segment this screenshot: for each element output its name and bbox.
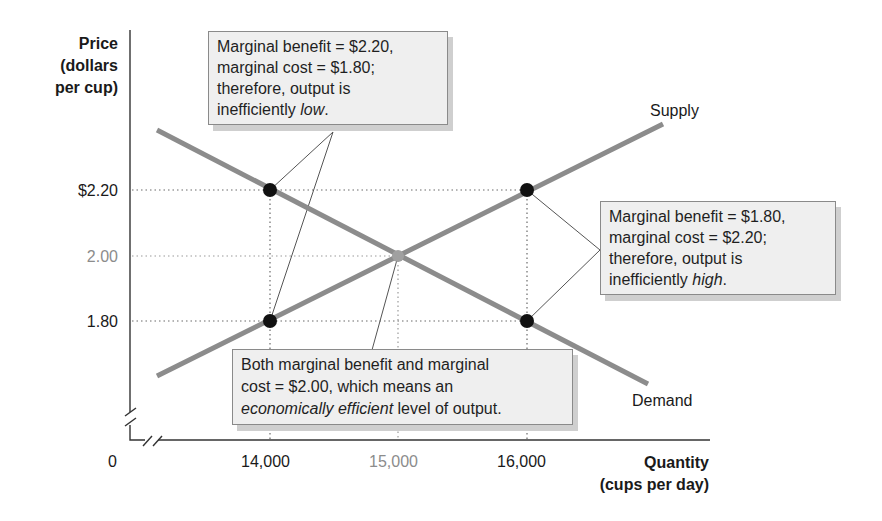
callout-line: therefore, output is (217, 78, 439, 99)
x-tick-14000: 14,000 (241, 452, 290, 471)
y-axis-title: Price (dollars per cup) (55, 33, 118, 99)
callout-line: Both marginal benefit and marginal (241, 354, 564, 376)
x-axis-title-line: Quantity (600, 452, 709, 474)
y-tick-2-00: 2.00 (87, 247, 118, 266)
demand-label: Demand (632, 391, 692, 410)
x-tick-0: 0 (108, 452, 117, 471)
callout-line: inefficiently low. (217, 99, 439, 120)
callout-line: inefficiently high. (609, 269, 827, 290)
y-axis-title-line: per cup) (55, 77, 118, 99)
callout-line: therefore, output is (609, 248, 827, 269)
equilibrium-point (392, 250, 404, 262)
callout-text: level of output. (393, 400, 502, 417)
y-tick-1-80: 1.80 (87, 312, 118, 331)
callout-text: inefficiently (217, 101, 300, 118)
callout-emphasis: high (692, 271, 722, 288)
x-tick-16000: 16,000 (497, 452, 546, 471)
callout-text: . (324, 101, 328, 118)
leader-lines (270, 132, 600, 350)
x-tick-15000: 15,000 (369, 452, 418, 471)
callout-inefficiently-high: Marginal benefit = $1.80, marginal cost … (600, 201, 836, 295)
callout-inefficiently-low: Marginal benefit = $2.20, marginal cost … (208, 31, 448, 125)
callout-line: cost = $2.00, which means an (241, 376, 564, 398)
callout-text: inefficiently (609, 271, 692, 288)
callout-line: economically efficient level of output. (241, 398, 564, 420)
y-tick-2-20: $2.20 (78, 181, 118, 200)
x-axis-title: Quantity (cups per day) (600, 452, 709, 496)
supply-curve (157, 124, 663, 376)
y-axis-title-line: Price (55, 33, 118, 55)
supply-label: Supply (650, 101, 699, 120)
callout-line: marginal cost = $1.80; (217, 57, 439, 78)
x-axis-title-line: (cups per day) (600, 474, 709, 496)
callout-line: Marginal benefit = $2.20, (217, 36, 439, 57)
callout-line: marginal cost = $2.20; (609, 227, 827, 248)
callout-line: Marginal benefit = $1.80, (609, 206, 827, 227)
callout-emphasis: low (300, 101, 324, 118)
callout-text: . (723, 271, 727, 288)
callout-efficient: Both marginal benefit and marginal cost … (232, 349, 573, 425)
callout-emphasis: economically efficient (241, 400, 393, 417)
y-axis-title-line: (dollars (55, 55, 118, 77)
